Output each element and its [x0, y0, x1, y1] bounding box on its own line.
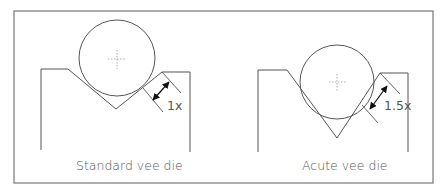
acute-crosshair-icon	[329, 74, 346, 91]
acute-caption: Acute vee die	[302, 158, 388, 173]
standard-dimension-label: 1x	[167, 98, 182, 113]
standard-crosshair-icon	[108, 50, 126, 69]
standard-extension-line-top	[162, 72, 181, 93]
standard-vee-die	[41, 20, 190, 152]
acute-dimension-label: 1.5x	[384, 98, 411, 113]
standard-punch-circle	[79, 20, 155, 96]
acute-punch-circle	[300, 45, 374, 119]
standard-caption: Standard vee die	[76, 158, 183, 173]
acute-extension-line-bottom	[362, 105, 378, 123]
